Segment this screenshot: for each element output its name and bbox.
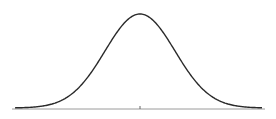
normal-distribution-curve [15, 14, 262, 108]
bell-curve-chart [0, 0, 276, 119]
